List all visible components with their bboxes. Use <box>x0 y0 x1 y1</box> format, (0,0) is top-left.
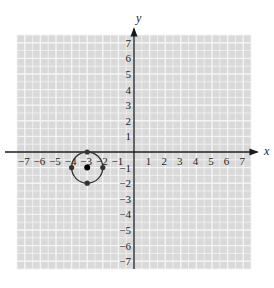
y-tick-label: −1 <box>119 162 131 174</box>
y-tick-label: −5 <box>119 224 131 236</box>
y-axis-arrow-icon <box>131 27 138 36</box>
x-tick-label: 4 <box>193 155 199 167</box>
x-tick-label: 3 <box>177 155 183 167</box>
circle-point <box>69 165 74 170</box>
y-tick-label: −4 <box>119 208 131 220</box>
coordinate-plane: −7−6−5−4−3−2−11234567−7−6−5−4−3−2−112345… <box>0 0 274 288</box>
circle-point <box>100 165 105 170</box>
y-tick-label: 2 <box>126 115 132 127</box>
x-tick-label: −5 <box>49 155 61 167</box>
x-tick-label: −6 <box>34 155 46 167</box>
y-tick-label: 5 <box>126 68 132 80</box>
y-tick-label: 6 <box>126 52 132 64</box>
y-tick-label: 7 <box>126 37 132 49</box>
x-tick-label: 1 <box>146 155 152 167</box>
x-tick-label: 6 <box>224 155 230 167</box>
x-tick-label: 7 <box>239 155 245 167</box>
x-axis-label: x <box>263 144 270 158</box>
y-tick-label: −7 <box>119 255 131 267</box>
circle-point <box>85 149 90 154</box>
circle-point <box>85 181 90 186</box>
x-tick-label: 2 <box>161 155 167 167</box>
y-axis-label: y <box>135 11 142 25</box>
y-tick-label: 4 <box>126 84 132 96</box>
y-tick-label: −6 <box>119 240 131 252</box>
y-tick-label: 1 <box>126 130 132 142</box>
x-tick-label: 5 <box>208 155 214 167</box>
center-point <box>84 165 90 171</box>
x-axis-arrow-icon <box>249 149 258 156</box>
x-tick-label: −7 <box>18 155 30 167</box>
y-tick-label: 3 <box>126 99 132 111</box>
y-tick-label: −3 <box>119 193 131 205</box>
y-tick-label: −2 <box>119 177 131 189</box>
